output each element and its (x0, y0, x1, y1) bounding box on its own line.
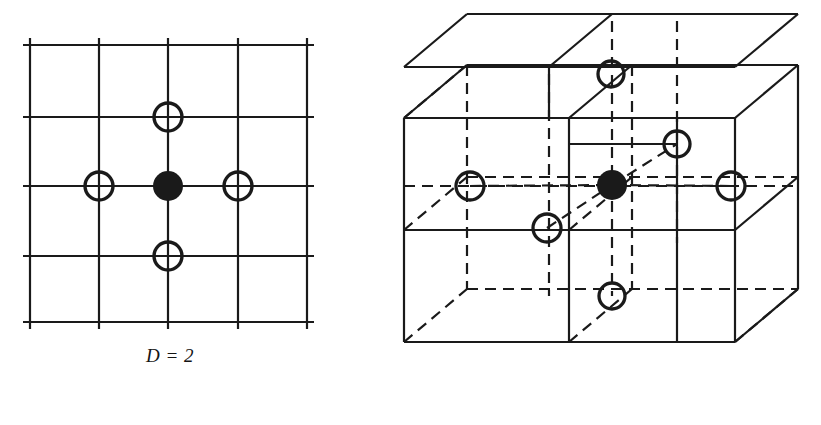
hidden-depth-left-bot (404, 289, 467, 342)
caption-d2: D = 2 (60, 345, 280, 367)
lattice-3d-diagram (390, 0, 821, 370)
right-depth-bottom (735, 289, 798, 342)
center-node-3d (597, 170, 627, 200)
lattice-2d-diagram (0, 0, 400, 340)
center-node-2d (153, 171, 183, 201)
top-depth-right (735, 65, 798, 118)
top-far-depth-right (735, 14, 798, 67)
panel-d3: D = 3 (390, 0, 821, 425)
top-far-depth-left (404, 14, 467, 67)
top-depth-left (404, 65, 467, 118)
panel-d2: D = 2 (0, 0, 400, 425)
top-far-depth-centre (549, 14, 612, 67)
figure-root: D = 2 (0, 0, 821, 425)
